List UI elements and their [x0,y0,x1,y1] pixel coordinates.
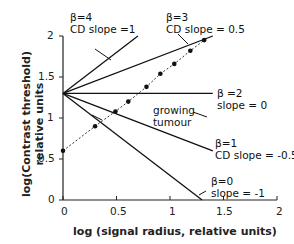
annotation-beta0: β=0 slope = -1 [211,175,265,199]
annotation-beta3-line1: β=3 [166,11,245,23]
x-tick-label: 0.5 [110,205,127,217]
annotation-tumour-line2: tumour [153,116,195,128]
data-point [144,85,149,90]
series-line-beta4 [63,36,138,93]
data-point [158,71,163,76]
annotation-beta1-line1: β=1 [215,137,294,149]
chart: 2 1.5 1 0.5 0 0 0.5 1 1.5 2 log(Contrast… [0,0,294,244]
y-tick-label: 2 [47,29,54,41]
annotation-beta1-line2: CD slope = -0.5 [215,149,294,161]
data-point [126,99,131,104]
y-tick-label: 0 [48,193,55,205]
annotation-beta2-line2: slope = 0 [217,99,267,111]
x-tick-label: 0 [61,205,68,217]
data-point [202,38,207,43]
data-point [172,62,177,67]
y-axis-label-line2: relative units [33,39,46,209]
annotation-leader [199,191,206,195]
annotation-beta3-line2: CD slope = 0.5 [166,23,245,35]
annotation-beta2: β =2 slope = 0 [217,87,267,111]
annotation-beta3: β=3 CD slope = 0.5 [166,11,245,35]
x-tick-label: 2 [276,205,283,217]
annotation-growing-tumour: growing tumour [153,104,195,128]
annotation-leader [95,49,111,60]
x-tick-label: 1 [169,205,176,217]
annotation-beta1: β=1 CD slope = -0.5 [215,137,294,161]
annotation-beta0-line2: slope = -1 [211,187,265,199]
annotation-leader [178,34,188,44]
x-axis-label: log (signal radius, relative units) [60,225,290,238]
annotation-beta2-line1: β =2 [217,87,267,99]
annotation-leader [193,112,207,117]
annotation-beta4-line1: β=4 [70,11,136,23]
annotation-tumour-line1: growing [153,104,195,116]
y-axis-label-line1: log(Contrast threshold) [20,39,33,209]
data-point [188,48,193,53]
y-axis-label: log(Contrast threshold) relative units [20,39,46,209]
y-tick-label: 1 [47,111,54,123]
annotation-beta4-line2: CD slope =1 [70,23,136,35]
annotation-beta0-line1: β=0 [211,175,265,187]
annotation-beta4: β=4 CD slope =1 [70,11,136,35]
data-point [61,149,66,154]
growing-tumour-line [63,40,204,151]
data-point [113,109,118,114]
series-line-beta3 [63,36,213,93]
x-tick-label: 1.5 [216,205,233,217]
data-point [93,124,98,129]
